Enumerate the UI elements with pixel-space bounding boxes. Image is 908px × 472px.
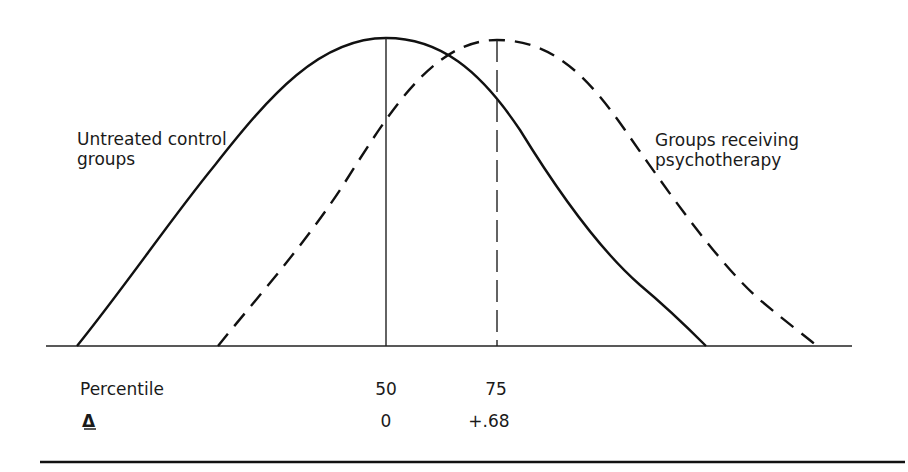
control-label-line1: Untreated control xyxy=(77,129,227,149)
percentile-row-label: Percentile xyxy=(80,379,164,399)
delta-row-label: Δ xyxy=(82,411,95,431)
treated-label-line2: psychotherapy xyxy=(655,150,781,170)
control-label-line2: groups xyxy=(77,149,135,169)
treated-label-line1: Groups receiving xyxy=(655,130,799,150)
control-distribution-curve xyxy=(77,38,706,346)
distribution-diagram xyxy=(0,0,908,472)
percentile-control-value: 50 xyxy=(356,379,416,399)
delta-treated-value: +.68 xyxy=(459,411,519,431)
percentile-treated-value: 75 xyxy=(466,379,526,399)
psychotherapy-distribution-curve xyxy=(218,40,817,346)
delta-control-value: 0 xyxy=(356,411,416,431)
